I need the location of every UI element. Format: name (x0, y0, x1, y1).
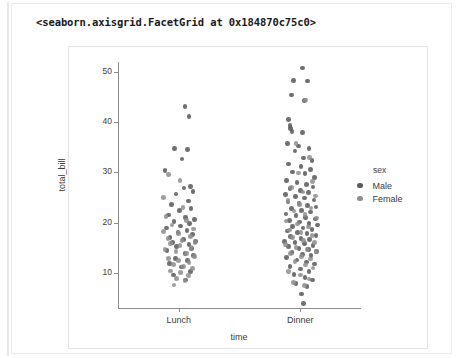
scatter-point (295, 258, 300, 263)
scatter-point (312, 198, 317, 203)
scatter-point (310, 227, 315, 232)
scatter-point (297, 246, 302, 251)
scatter-point (163, 168, 168, 173)
scatter-point (312, 262, 317, 267)
x-tick-label-dinner: Dinner (287, 315, 314, 325)
scatter-point (187, 260, 192, 265)
scatter-point (307, 277, 312, 282)
scatter-point (303, 215, 308, 220)
plot-axes: 1020304050 LunchDinner total_bill time s… (69, 47, 429, 350)
scatter-point (296, 171, 301, 176)
scatter-point (286, 244, 291, 249)
scatter-point (299, 164, 304, 169)
scatter-point (283, 192, 288, 197)
y-tick-label: 20 (92, 217, 112, 227)
y-tick-label: 40 (92, 116, 112, 126)
scatter-point (184, 218, 189, 223)
scatter-point (174, 192, 179, 197)
scatter-point (187, 242, 192, 247)
scatter-point (309, 253, 314, 258)
scatter-point (308, 210, 313, 215)
scatter-point (284, 255, 289, 260)
scatter-point (161, 229, 166, 234)
legend-label: Female (373, 194, 403, 204)
scatter-point (313, 194, 318, 199)
scatter-point (288, 264, 293, 269)
scatter-point (161, 195, 166, 200)
scatter-point (192, 217, 197, 222)
scatter-point (190, 266, 195, 271)
scatter-point (178, 243, 183, 248)
scatter-point (287, 228, 292, 233)
scatter-point (298, 273, 303, 278)
scatter-point (293, 149, 298, 154)
scatter-point (297, 220, 302, 225)
cell-frame: <seaborn.axisgrid.FacetGrid at 0x184870c… (11, 3, 452, 354)
scatter-point (290, 235, 295, 240)
scatter-point (289, 206, 294, 211)
scatter-point (288, 126, 293, 131)
scatter-point (176, 258, 181, 263)
scatter-point (172, 283, 177, 288)
scatter-point (283, 242, 288, 247)
scatter-point (178, 270, 183, 275)
scatter-point (181, 205, 186, 210)
scatter-point (286, 162, 291, 167)
scatter-point (305, 284, 310, 289)
scatter-point (286, 198, 291, 203)
scatter-point (289, 185, 294, 190)
scatter-point (287, 218, 292, 223)
scatter-point (178, 224, 183, 229)
scatter-point (183, 278, 188, 283)
scatter-point (306, 190, 311, 195)
scatter-point (184, 251, 189, 256)
scatter-point (299, 254, 304, 259)
scatter-point (310, 179, 315, 184)
scatter-point (167, 261, 172, 266)
scatter-point (294, 141, 299, 146)
scatter-point (303, 98, 308, 103)
scatter-point (163, 247, 168, 252)
scatter-point (285, 229, 290, 234)
scatter-point (284, 212, 289, 217)
scatter-point (189, 246, 194, 251)
scatter-point (301, 226, 306, 231)
scatter-point (182, 186, 187, 191)
y-tick-mark (114, 72, 118, 73)
y-tick-mark (114, 273, 118, 274)
scatter-point (188, 269, 193, 274)
y-tick-mark (114, 122, 118, 123)
scatter-point (286, 117, 291, 122)
scatter-point (295, 222, 300, 227)
scatter-point (299, 208, 304, 213)
scatter-point (310, 278, 315, 283)
scatter-point (170, 223, 175, 228)
scatter-point (315, 223, 320, 228)
scatter-point (185, 147, 190, 152)
y-tick-mark (114, 223, 118, 224)
scatter-point (291, 78, 296, 83)
scatter-point (297, 202, 302, 207)
notebook-output-cell: <seaborn.axisgrid.FacetGrid at 0x184870c… (0, 0, 467, 358)
scatter-point (294, 281, 299, 286)
scatter-point (305, 231, 310, 236)
scatter-point (183, 279, 188, 284)
scatter-point (177, 208, 182, 213)
scatter-point (308, 257, 313, 262)
scatter-point (300, 252, 305, 257)
scatter-point (305, 79, 310, 84)
y-tick-label: 30 (92, 166, 112, 176)
scatter-point (179, 265, 184, 270)
scatter-point (303, 212, 308, 217)
scatter-point (301, 190, 306, 195)
scatter-point (303, 263, 308, 268)
scatter-point (286, 200, 291, 205)
legend-marker-icon (357, 196, 363, 202)
scatter-point (180, 157, 185, 162)
scatter-point (312, 240, 317, 245)
scatter-point (170, 240, 175, 245)
scatter-point (168, 269, 173, 274)
scatter-point (295, 230, 300, 235)
scatter-point (172, 146, 177, 151)
legend-entry-male: Male (352, 179, 426, 192)
